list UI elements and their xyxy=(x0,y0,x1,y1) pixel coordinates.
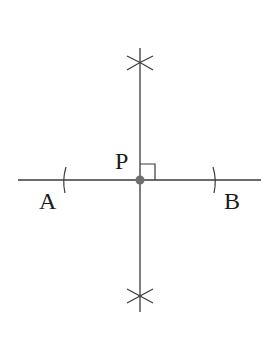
label-a: A xyxy=(39,189,56,213)
perpendicular-construction-diagram: P A B xyxy=(0,0,279,343)
diagram-svg xyxy=(0,0,279,343)
label-b: B xyxy=(224,189,240,213)
point-p-dot xyxy=(136,176,145,185)
label-p: P xyxy=(115,149,128,173)
